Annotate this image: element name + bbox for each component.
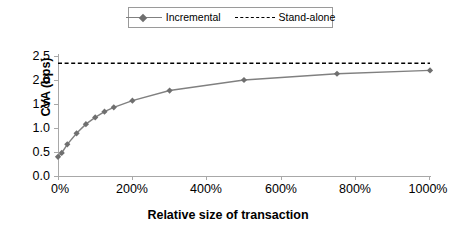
series-incremental: [55, 67, 433, 160]
chart-plot-area: [0, 0, 456, 231]
incremental-line: [58, 70, 430, 156]
data-point-marker: [167, 87, 173, 93]
y-axis-title: CVA (bps): [39, 27, 53, 147]
data-point-marker: [241, 77, 247, 83]
data-point-marker: [427, 67, 433, 73]
data-point-marker: [111, 104, 117, 110]
x-axis-title: Relative size of transaction: [0, 208, 456, 222]
incremental-markers: [55, 67, 433, 160]
chart-container: Incremental Stand-alone 2.5 2.0 1.5 1.0 …: [0, 0, 456, 231]
data-point-marker: [101, 109, 107, 115]
data-point-marker: [334, 71, 340, 77]
data-point-marker: [129, 98, 135, 104]
